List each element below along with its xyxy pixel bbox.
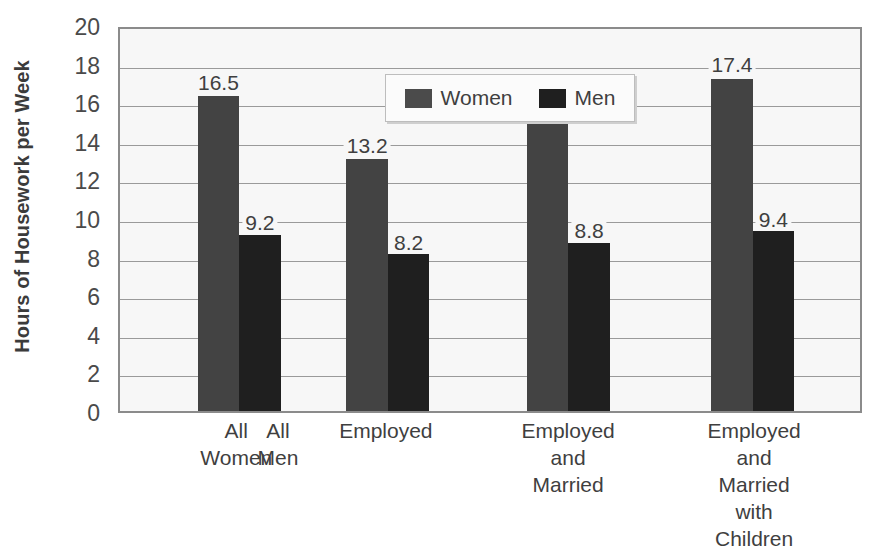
bar-women-1[interactable] xyxy=(346,159,387,411)
y-axis-title: Hours of Housework per Week xyxy=(0,0,44,413)
x-axis-label-4: Employed and Married with Children xyxy=(700,418,808,550)
x-axis-category-labels: All WomenAll MenEmployedEmployed and Mar… xyxy=(118,418,862,517)
y-axis-title-text: Hours of Housework per Week xyxy=(11,60,34,352)
y-axis-tick-label: 12 xyxy=(74,168,100,195)
plot-area: 16.59.213.28.215.78.817.49.4 WomenMen xyxy=(118,27,862,413)
y-axis-tick-label: 18 xyxy=(74,52,100,79)
x-axis-label-1: All Men xyxy=(258,418,299,472)
y-axis-tick-label: 4 xyxy=(87,322,100,349)
bar-women-3[interactable] xyxy=(711,79,752,411)
bar-value-label: 9.2 xyxy=(242,212,277,234)
bar-women-0[interactable] xyxy=(198,96,239,411)
y-axis-tick-label: 6 xyxy=(87,284,100,311)
bar-men-0[interactable] xyxy=(239,235,280,411)
legend-entry-men[interactable]: Men xyxy=(539,86,616,110)
legend-swatch-icon xyxy=(405,89,432,108)
y-axis-tick-labels: 02468101214161820 xyxy=(52,27,110,413)
y-axis-tick-label: 16 xyxy=(74,91,100,118)
y-axis-tick-label: 10 xyxy=(74,207,100,234)
y-axis-tick-label: 14 xyxy=(74,129,100,156)
bar-men-2[interactable] xyxy=(568,243,609,411)
bar-value-label: 17.4 xyxy=(709,54,756,76)
y-axis-tick-label: 8 xyxy=(87,245,100,272)
bar-men-1[interactable] xyxy=(388,254,429,411)
y-axis-tick-label: 2 xyxy=(87,361,100,388)
y-axis-tick-label: 0 xyxy=(87,400,100,427)
legend: WomenMen xyxy=(385,74,635,122)
legend-label: Men xyxy=(575,86,616,110)
legend-label: Women xyxy=(441,86,513,110)
bar-women-2[interactable] xyxy=(527,111,568,411)
bar-value-label: 16.5 xyxy=(195,72,242,94)
bar-value-label: 9.4 xyxy=(756,209,791,231)
y-axis-tick-label: 20 xyxy=(74,14,100,41)
bar-men-3[interactable] xyxy=(753,231,794,411)
legend-entry-women[interactable]: Women xyxy=(405,86,513,110)
legend-swatch-icon xyxy=(539,89,566,108)
bar-value-label: 8.8 xyxy=(572,220,607,242)
x-axis-label-3: Employed and Married xyxy=(521,418,614,499)
bar-value-label: 13.2 xyxy=(344,135,391,157)
x-axis-label-2: Employed xyxy=(339,418,432,445)
bar-value-label: 8.2 xyxy=(391,232,426,254)
